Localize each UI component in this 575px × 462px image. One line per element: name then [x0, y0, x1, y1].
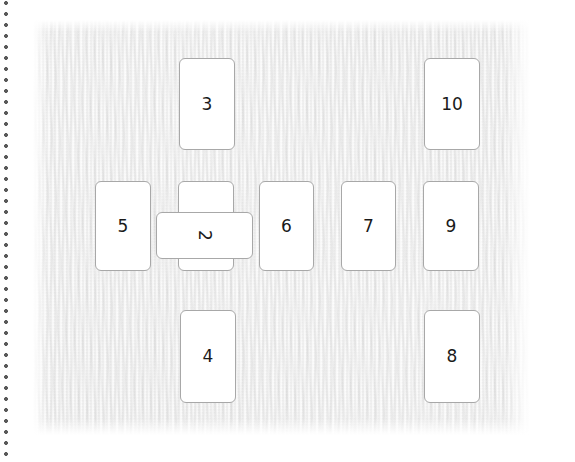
card-label: 8	[447, 348, 458, 365]
card-label: 6	[281, 218, 292, 235]
card-7[interactable]: 7	[341, 181, 396, 271]
card-4[interactable]: 4	[180, 310, 236, 403]
card-10[interactable]: 10	[424, 58, 480, 150]
card-9[interactable]: 9	[423, 181, 479, 271]
card-3[interactable]: 3	[179, 58, 235, 150]
card-6[interactable]: 6	[259, 181, 314, 271]
card-5[interactable]: 5	[95, 181, 151, 271]
card-label: 2	[196, 230, 213, 241]
screenshot-canvas: 31051679248	[0, 0, 575, 462]
card-label: 10	[441, 96, 463, 113]
card-label: 3	[202, 96, 213, 113]
card-label: 4	[203, 348, 214, 365]
card-label: 5	[118, 218, 129, 235]
card-2[interactable]: 2	[156, 212, 253, 259]
card-label: 9	[446, 218, 457, 235]
card-label: 7	[363, 218, 374, 235]
card-8[interactable]: 8	[424, 310, 480, 403]
dotted-rail	[3, 0, 9, 462]
